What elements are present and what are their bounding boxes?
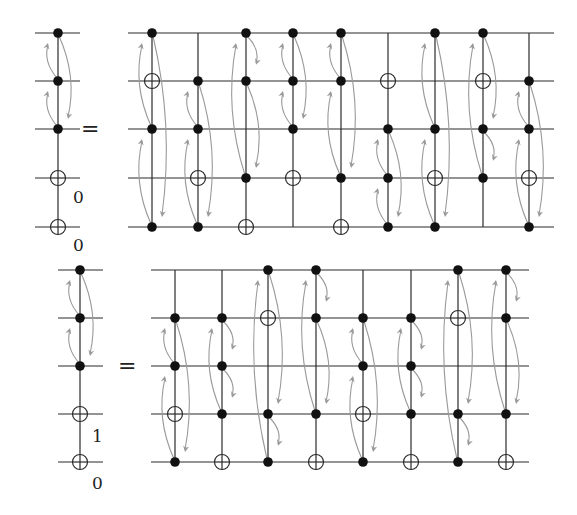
control-dot-icon [170, 457, 180, 467]
control-dot-icon [75, 313, 85, 323]
arrowhead-icon [161, 376, 167, 383]
control-dot-icon [336, 173, 346, 183]
arrowhead-icon [349, 376, 355, 383]
arrow-down-curve [364, 321, 377, 450]
ancilla-state-label: 0 [92, 473, 103, 493]
arrowhead-icon [278, 91, 284, 98]
arrow-up-curve [282, 45, 292, 78]
arrow-up-curve [69, 282, 79, 315]
arrowhead-icon [396, 210, 402, 217]
target-oplus-icon [451, 311, 466, 326]
target-oplus-icon [145, 74, 160, 89]
control-dot-icon [453, 457, 463, 467]
control-dot-icon [311, 265, 321, 275]
control-dot-icon [406, 361, 416, 371]
arrowhead-icon [183, 91, 189, 98]
control-dot-icon [336, 28, 346, 38]
arrow-up-curve [469, 45, 482, 175]
arrow-down-curve [507, 273, 517, 300]
control-dot-icon [193, 222, 203, 232]
control-dot-icon [430, 124, 440, 134]
arrow-down-curve [81, 273, 93, 354]
target-oplus-icon [168, 407, 183, 422]
target-oplus-icon [404, 455, 419, 470]
control-dot-icon [311, 409, 321, 419]
control-dot-icon [75, 265, 85, 275]
control-dot-icon [288, 76, 298, 86]
arrowhead-icon [88, 349, 94, 356]
arrow-up-curve [377, 190, 387, 224]
control-dot-icon [193, 124, 203, 134]
arrow-down-curve [317, 321, 329, 402]
control-dot-icon [147, 222, 157, 232]
arrow-up-curve [209, 330, 221, 411]
arrow-up-curve [187, 93, 197, 126]
arrow-up-curve [139, 141, 151, 224]
arrow-down-curve [176, 321, 189, 450]
arrowhead-icon [397, 328, 403, 335]
arrow-down-curve [507, 321, 519, 402]
arrow-up-curve [422, 45, 434, 126]
arrowhead-icon [301, 112, 307, 119]
arrow-up-curve [492, 282, 505, 411]
ancilla-state-label: 0 [73, 235, 84, 255]
control-dot-icon [358, 457, 368, 467]
control-dot-icon [453, 409, 463, 419]
arrowhead-icon [43, 43, 49, 50]
arrowhead-icon [348, 328, 354, 335]
arrow-down-curve [247, 84, 259, 166]
control-dot-icon [478, 173, 488, 183]
arrowhead-icon [254, 161, 260, 168]
control-dot-icon [430, 222, 440, 232]
arrowhead-icon [373, 188, 379, 195]
arrow-down-curve [199, 84, 212, 215]
arrow-up-curve [47, 45, 57, 78]
gates-layer [51, 28, 537, 469]
control-dot-icon [336, 76, 346, 86]
arrow-up-curve [232, 45, 245, 175]
control-dot-icon [147, 124, 157, 134]
control-dot-icon [501, 313, 511, 323]
arrowhead-icon [66, 112, 72, 119]
arrow-down-curve [459, 273, 472, 402]
target-oplus-icon [499, 455, 514, 470]
control-dot-icon [263, 457, 273, 467]
arrowhead-icon [65, 280, 71, 287]
control-dot-icon [478, 124, 488, 134]
control-dot-icon [288, 124, 298, 134]
target-oplus-icon [51, 171, 66, 186]
arrowhead-icon [208, 328, 214, 335]
arrow-down-curve [294, 36, 306, 117]
target-oplus-icon [309, 455, 324, 470]
arrow-down-curve [342, 36, 355, 166]
arrow-up-curve [330, 45, 340, 78]
arrow-up-curve [518, 93, 528, 126]
arrowhead-icon [421, 139, 427, 146]
control-dot-icon [358, 361, 368, 371]
target-oplus-icon [73, 455, 88, 470]
arrowhead-icon [231, 343, 237, 350]
arrow-down-curve [412, 321, 422, 348]
arrow-down-curve [269, 417, 279, 444]
control-dot-icon [193, 76, 203, 86]
equals-sign: = [81, 116, 99, 141]
arrowhead-icon [515, 139, 521, 146]
arrowhead-icon [327, 91, 333, 98]
control-dot-icon [241, 28, 251, 38]
arrow-down-curve [317, 273, 327, 300]
arrow-down-curve [269, 273, 282, 402]
target-oplus-icon [476, 74, 491, 89]
arrow-down-curve [59, 36, 71, 117]
arrow-down-curve [459, 417, 469, 444]
control-dot-icon [53, 124, 63, 134]
arrowhead-icon [326, 43, 332, 50]
control-dot-icon [263, 265, 273, 275]
target-oplus-icon [334, 220, 349, 235]
control-dot-icon [501, 265, 511, 275]
arrow-up-curve [302, 282, 315, 411]
arrow-up-curve [398, 330, 410, 411]
arrowhead-icon [373, 139, 379, 146]
control-dot-icon [288, 28, 298, 38]
arrowhead-icon [278, 43, 284, 50]
control-dot-icon [217, 409, 227, 419]
